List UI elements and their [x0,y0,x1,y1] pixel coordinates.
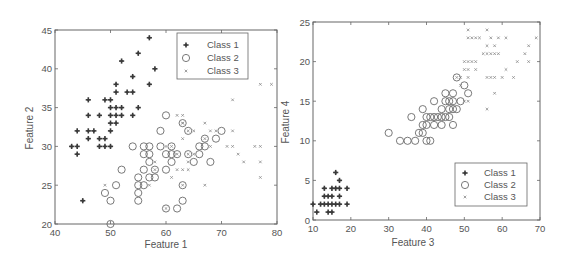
y-tick-label: 25 [41,180,52,191]
legend-left: Class 1 Class 2 Class 3 [177,33,248,79]
legend-right-class2: Class 2 [484,179,516,190]
x-tick-label: 40 [421,223,432,234]
x-tick-label: 50 [459,223,470,234]
legend-right-class3: Class 3 [484,191,516,202]
x-tick-label: 70 [535,223,546,234]
legend-right: Class 1 Class 2 Class 3 [455,163,527,206]
panel-left: 4050607080202530354045 Feature 1 Feature… [24,25,282,251]
y-tick-label: 20 [41,219,52,230]
panel-right: 102030405060700510152025 Feature 3 Featu… [280,17,545,249]
y-axis-label-right: Feature 4 [280,100,291,143]
x-tick-label: 50 [105,227,116,238]
y-tick-label: 20 [299,56,310,67]
x-tick-label: 60 [497,223,508,234]
x-tick-label: 80 [272,227,283,238]
figure: 4050607080202530354045 Feature 1 Feature… [0,0,573,259]
y-tick-label: 45 [41,25,52,36]
y-tick-label: 30 [41,141,52,152]
legend-left-class3: Class 3 [207,65,239,76]
y-tick-label: 40 [41,63,52,74]
legend-right-class1: Class 1 [484,167,516,178]
y-tick-label: 10 [299,135,310,146]
legend-left-class1: Class 1 [207,39,239,50]
x-axis-label-right: Feature 3 [392,237,435,248]
y-tick-label: 15 [299,96,310,107]
y-tick-label: 0 [305,215,310,226]
x-axis-label-left: Feature 1 [145,239,188,250]
y-tick-label: 35 [41,102,52,113]
x-tick-label: 30 [383,223,394,234]
y-tick-label: 5 [305,175,310,186]
x-tick-label: 60 [161,227,172,238]
y-axis-label-left: Feature 2 [24,106,35,149]
x-tick-label: 20 [346,223,357,234]
y-tick-label: 25 [299,17,310,28]
x-tick-label: 70 [216,227,227,238]
legend-left-class2: Class 2 [207,52,239,63]
